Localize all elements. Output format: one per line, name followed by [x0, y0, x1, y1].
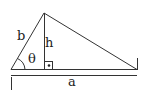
angle-arc — [18, 59, 26, 70]
label-theta: θ — [28, 51, 36, 66]
right-angle-dot — [48, 64, 51, 67]
label-b: b — [17, 28, 25, 43]
side-c-line — [44, 13, 137, 70]
label-a: a — [68, 74, 76, 89]
label-h: h — [45, 35, 54, 50]
triangle-diagram: b h θ a — [0, 0, 144, 96]
